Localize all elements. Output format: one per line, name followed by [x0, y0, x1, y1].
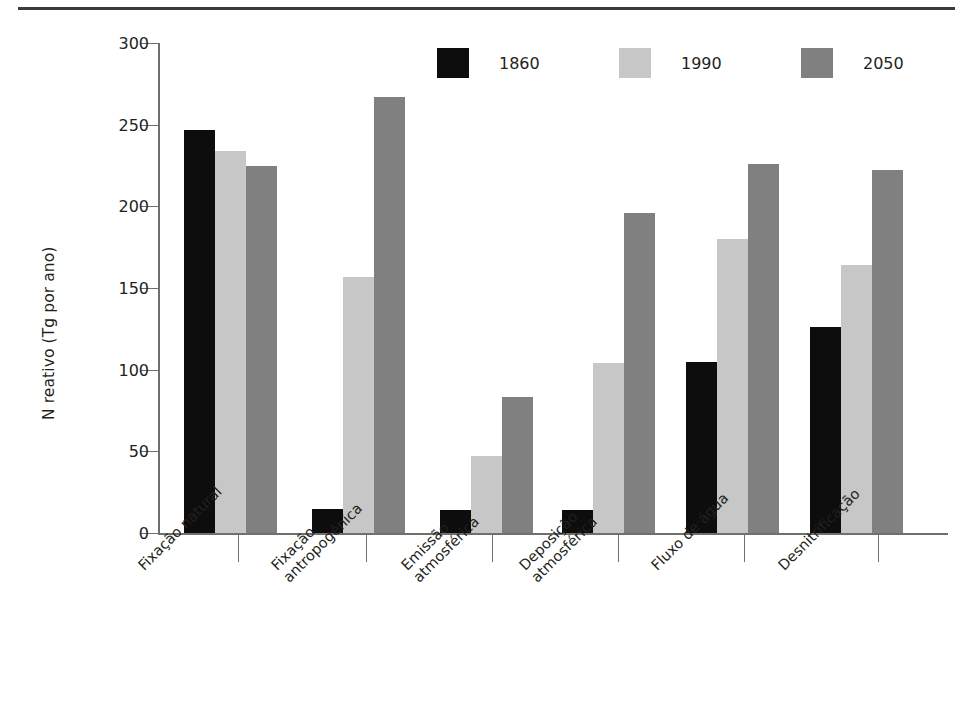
bar-2050 [748, 164, 779, 533]
y-axis-tick-label: 250 [118, 115, 149, 134]
bar-group [184, 43, 277, 533]
y-axis-title: N reativo (Tg por ano) [40, 120, 62, 420]
legend-item-1990: 1990 [619, 46, 722, 80]
bar-group [810, 43, 903, 533]
y-axis-tick-label: 100 [118, 360, 149, 379]
x-axis-separator [238, 535, 239, 562]
bar-1990 [717, 239, 748, 533]
y-axis-tick-label: 150 [118, 279, 149, 298]
y-axis-tick-label: 300 [118, 34, 149, 53]
bar-1990 [215, 151, 246, 533]
bar-group [686, 43, 779, 533]
bar-group [440, 43, 533, 533]
legend-swatch-icon [619, 48, 651, 78]
x-axis-separator [492, 535, 493, 562]
x-axis-separator [744, 535, 745, 562]
legend-label: 1990 [681, 54, 722, 73]
bar-2050 [624, 213, 655, 533]
legend-item-1860: 1860 [437, 46, 540, 80]
bar-2050 [502, 397, 533, 533]
x-axis-separator [618, 535, 619, 562]
bar-1860 [184, 130, 215, 533]
bar-1990 [593, 363, 624, 533]
bar-group [562, 43, 655, 533]
plot-area [158, 43, 948, 533]
legend-item-2050: 2050 [801, 46, 904, 80]
legend-swatch-icon [801, 48, 833, 78]
bar-2050 [872, 170, 903, 533]
bar-chart-figure: N reativo (Tg por ano) 05010015020025030… [0, 0, 965, 714]
y-axis-tick-label: 200 [118, 197, 149, 216]
x-axis-separator [878, 535, 879, 562]
legend-label: 1860 [499, 54, 540, 73]
bar-2050 [374, 97, 405, 533]
bar-group [312, 43, 405, 533]
y-axis-tick-label: 50 [129, 442, 149, 461]
x-axis-separator [366, 535, 367, 562]
bar-2050 [246, 166, 277, 534]
legend-label: 2050 [863, 54, 904, 73]
y-axis-tick-label: 0 [139, 524, 149, 543]
legend-swatch-icon [437, 48, 469, 78]
